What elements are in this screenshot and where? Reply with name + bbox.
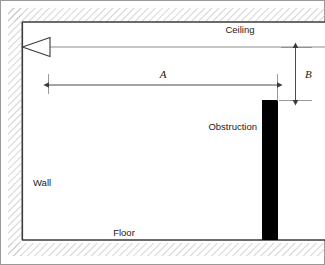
- room-cross-section-diagram: A B Ceiling Obstruction Wall Floor: [0, 0, 325, 265]
- obstruction-label: Obstruction: [208, 121, 257, 132]
- ceiling-label: Ceiling: [225, 24, 254, 35]
- room-interior: [22, 22, 325, 240]
- diagram-canvas: A B Ceiling Obstruction Wall Floor: [0, 0, 325, 265]
- hatch-band-left: [8, 8, 22, 256]
- floor-label: Floor: [113, 227, 135, 238]
- hatch-band-top: [8, 8, 325, 22]
- dimension-a-label: A: [159, 68, 167, 80]
- hatch-band-bottom: [8, 243, 325, 256]
- dimension-b-label: B: [305, 68, 312, 80]
- obstruction-bar: [262, 100, 278, 240]
- wall-label: Wall: [33, 177, 51, 188]
